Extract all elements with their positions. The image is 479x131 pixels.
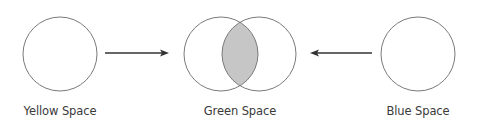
yellow-space-circle bbox=[23, 17, 97, 91]
blue-space-label: Blue Space bbox=[386, 104, 449, 118]
green-space-venn bbox=[184, 17, 296, 91]
green-space-label: Green Space bbox=[204, 104, 276, 118]
arrow-right-icon bbox=[105, 50, 169, 57]
arrow-left-icon bbox=[310, 50, 372, 57]
yellow-space-label: Yellow Space bbox=[24, 104, 97, 118]
blue-space-circle bbox=[381, 17, 455, 91]
